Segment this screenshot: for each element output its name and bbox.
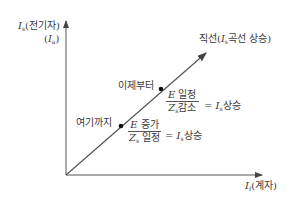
y-axis-alt-label: (Ia) (44, 34, 59, 45)
den-text: 일정 (139, 132, 160, 143)
y-axis-text: (전기자) (25, 20, 60, 31)
line-label: 직선(Is곡선 상승) (199, 34, 271, 45)
point-lower-label: 여기까지 (76, 118, 112, 128)
num-var: E (130, 119, 137, 130)
point-lower-fraction: E 증가 Zs 일정 (127, 120, 162, 144)
point-upper-result: = Is상승 (204, 97, 241, 112)
point-upper-numerator: E 일정 (166, 90, 199, 102)
point-upper-fraction: E 일정 Zs감소 (166, 90, 199, 114)
num-text: 일정 (175, 89, 196, 100)
y-axis-alt-sub: a (52, 38, 56, 45)
den-text: 감소 (178, 102, 196, 113)
res-text: 상승 (184, 130, 202, 141)
den-var: Z (129, 132, 136, 143)
res-text: 상승 (223, 100, 241, 111)
point-upper-denominator: Zs감소 (166, 102, 198, 114)
x-axis-text: (계자) (251, 180, 277, 191)
equals-sign: = (165, 130, 173, 141)
point-lower-numerator: E 증가 (128, 120, 161, 132)
point-lower-result: = Is상승 (165, 127, 202, 142)
equals-sign: = (204, 100, 212, 111)
line-label-suffix: 곡선 상승) (228, 33, 271, 44)
characteristic-line (66, 53, 206, 175)
point-lower-denominator: Zs 일정 (127, 132, 162, 144)
y-axis-label: Is(전기자) (18, 21, 60, 32)
line-label-prefix: 직선( (199, 33, 221, 44)
num-text: 증가 (138, 119, 159, 130)
point-lower-dot (119, 124, 124, 129)
x-axis-label: If(계자) (245, 181, 277, 192)
point-upper-label: 이제부터 (118, 81, 154, 91)
point-upper-dot (159, 87, 164, 92)
